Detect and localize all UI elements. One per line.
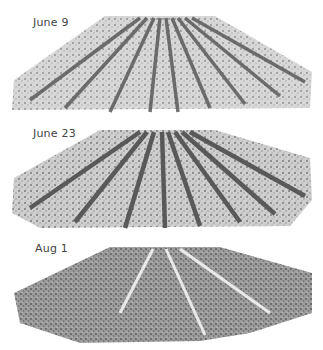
panel-label: Aug 1: [35, 242, 68, 255]
panel-label: June 23: [33, 127, 76, 140]
panel-aug-1: Aug 1: [0, 233, 323, 350]
panel-june-9: June 9: [0, 0, 323, 118]
panel-label: June 9: [33, 16, 69, 29]
panel-june-23: June 23: [0, 118, 323, 233]
